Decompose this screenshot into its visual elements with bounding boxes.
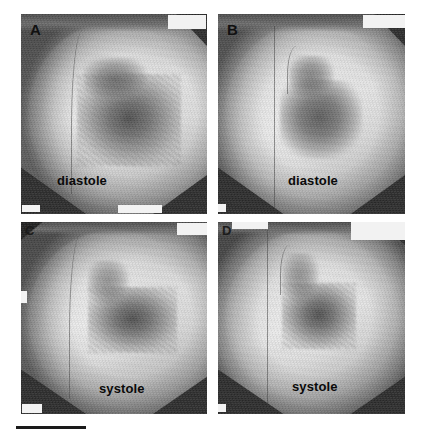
panel-letter-b: B: [227, 22, 238, 37]
overlay-box-bottom-left-c: [22, 404, 42, 413]
ventricle-outflow-c: [88, 260, 129, 306]
overlay-box-bottom-left-a: [22, 205, 40, 212]
panel-c[interactable]: C systole: [21, 222, 207, 414]
ventricle-outflow-a: [84, 58, 147, 102]
overlay-box-top-right-d: [351, 222, 405, 231]
overlay-box-top-left-d: [232, 222, 268, 229]
catheter-d: [267, 230, 268, 410]
panel-letter-a: A: [30, 22, 41, 37]
ventriculogram-figure: A diastole B diastole: [0, 0, 428, 438]
panel-d[interactable]: D systole: [218, 222, 405, 414]
panel-b[interactable]: B diastole: [218, 14, 405, 214]
catheter-tip-b: [287, 46, 303, 94]
overlay-box-top-right-b: [363, 15, 405, 28]
panel-a[interactable]: A diastole: [21, 14, 207, 214]
overlay-box-top-right-second-d: [351, 231, 405, 240]
overlay-box-top-right-c: [177, 223, 207, 235]
overlay-box-bottom-center-a: [118, 205, 162, 213]
panel-letter-d: D: [222, 224, 232, 237]
overlay-box-top-right-a: [168, 15, 206, 29]
phase-label-d: systole: [292, 380, 338, 393]
overlay-box-bottom-left-b: [218, 204, 226, 212]
overlay-box-bottom-left-d: [218, 404, 226, 412]
catheter-b: [274, 26, 275, 210]
catheter-a: [71, 30, 91, 194]
scale-bar: [16, 426, 86, 429]
overlay-box-left-edge-c: [21, 291, 27, 303]
catheter-c: [69, 234, 89, 399]
catheter-tip-d: [280, 245, 296, 295]
phase-label-a: diastole: [57, 174, 107, 187]
phase-label-b: diastole: [288, 174, 338, 187]
phase-label-c: systole: [99, 382, 145, 395]
panel-letter-c: C: [25, 224, 35, 237]
